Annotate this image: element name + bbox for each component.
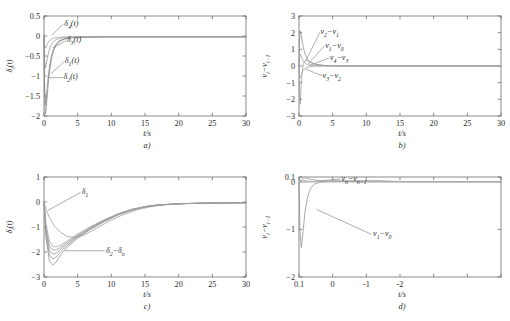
svg-text:−1: −1 xyxy=(31,72,40,81)
panel-b: 0510152025303210−1−2−3t/svi−vi−1b)v2−v1v… xyxy=(255,0,510,161)
svg-text:20: 20 xyxy=(175,119,183,128)
svg-text:−2: −2 xyxy=(31,112,40,121)
svg-text:δi(t): δi(t) xyxy=(5,220,16,233)
svg-text:v1−v0: v1−v0 xyxy=(373,228,391,239)
svg-text:vi−vi−1: vi−vi−1 xyxy=(260,215,271,238)
svg-text:0: 0 xyxy=(42,119,46,128)
svg-text:0: 0 xyxy=(297,119,301,128)
svg-text:δ1: δ1 xyxy=(82,186,89,197)
svg-text:−2: −2 xyxy=(286,272,295,281)
svg-text:30: 30 xyxy=(242,279,250,288)
svg-text:−3: −3 xyxy=(31,272,40,281)
svg-text:0: 0 xyxy=(291,62,295,71)
svg-text:0: 0 xyxy=(291,177,295,186)
svg-text:v2−v1: v2−v1 xyxy=(321,27,339,38)
svg-text:10: 10 xyxy=(107,119,115,128)
svg-text:d): d) xyxy=(399,302,406,311)
svg-text:0: 0 xyxy=(36,32,40,41)
svg-text:−1: −1 xyxy=(31,222,40,231)
svg-text:v3−v2: v3−v2 xyxy=(323,71,341,82)
svg-text:δ2(t): δ2(t) xyxy=(64,72,79,83)
svg-text:5: 5 xyxy=(331,119,335,128)
svg-text:-2: -2 xyxy=(397,279,404,288)
svg-text:10: 10 xyxy=(107,279,115,288)
svg-text:δ2−δn: δ2−δn xyxy=(106,245,125,256)
svg-text:-1: -1 xyxy=(363,279,370,288)
svg-text:vn−vn−1: vn−vn−1 xyxy=(341,174,366,185)
svg-text:1: 1 xyxy=(36,172,40,181)
svg-text:t/s: t/s xyxy=(398,129,406,138)
svg-text:a): a) xyxy=(144,141,151,150)
svg-text:10: 10 xyxy=(362,119,370,128)
svg-text:25: 25 xyxy=(208,119,216,128)
svg-text:v1−v0: v1−v0 xyxy=(325,41,343,52)
svg-text:25: 25 xyxy=(463,119,471,128)
svg-text:25: 25 xyxy=(208,279,216,288)
svg-text:20: 20 xyxy=(430,119,438,128)
figure-four-panel: 0510152025300.50−0.5−1−1.5−2t/sδi(t)a)δ4… xyxy=(0,0,510,321)
svg-text:δi(t): δi(t) xyxy=(5,59,16,72)
svg-text:b): b) xyxy=(399,141,406,150)
svg-text:δ4(t): δ4(t) xyxy=(64,19,79,30)
svg-text:−1: −1 xyxy=(286,79,295,88)
svg-text:v4−v3: v4−v3 xyxy=(330,53,348,64)
svg-text:0: 0 xyxy=(331,279,335,288)
svg-text:−0.5: −0.5 xyxy=(25,52,40,61)
svg-text:−1: −1 xyxy=(286,225,295,234)
svg-text:−3: −3 xyxy=(286,112,295,121)
svg-text:δ3(t): δ3(t) xyxy=(67,35,82,46)
svg-text:5: 5 xyxy=(76,119,80,128)
panel-a: 0510152025300.50−0.5−1−1.5−2t/sδi(t)a)δ4… xyxy=(0,0,255,161)
svg-text:5: 5 xyxy=(76,279,80,288)
svg-text:0.5: 0.5 xyxy=(30,12,40,21)
svg-text:15: 15 xyxy=(141,279,149,288)
svg-text:3: 3 xyxy=(291,12,295,21)
svg-text:t/s: t/s xyxy=(143,290,151,299)
svg-text:−2: −2 xyxy=(286,95,295,104)
svg-text:t/s: t/s xyxy=(143,129,151,138)
panel-d: 0.10-1-20.10−1−2t/svi−vi−1d)vn−vn−1v1−v0 xyxy=(255,161,510,321)
svg-text:0: 0 xyxy=(42,279,46,288)
svg-text:−1.5: −1.5 xyxy=(25,92,40,101)
svg-text:vi−vi−1: vi−vi−1 xyxy=(260,54,271,77)
svg-text:δ1(t): δ1(t) xyxy=(65,56,80,67)
svg-text:1: 1 xyxy=(291,45,295,54)
svg-text:30: 30 xyxy=(497,119,505,128)
svg-text:t/s: t/s xyxy=(398,290,406,299)
svg-text:20: 20 xyxy=(175,279,183,288)
svg-text:−2: −2 xyxy=(31,247,40,256)
svg-text:0.1: 0.1 xyxy=(294,279,304,288)
svg-text:2: 2 xyxy=(291,29,295,38)
panel-c: 05101520253010−1−2−3t/sδi(t)c)δ1δ2−δn xyxy=(0,161,255,321)
svg-text:15: 15 xyxy=(141,119,149,128)
svg-text:0: 0 xyxy=(36,197,40,206)
svg-text:30: 30 xyxy=(242,119,250,128)
svg-text:c): c) xyxy=(144,302,151,311)
svg-text:15: 15 xyxy=(396,119,404,128)
